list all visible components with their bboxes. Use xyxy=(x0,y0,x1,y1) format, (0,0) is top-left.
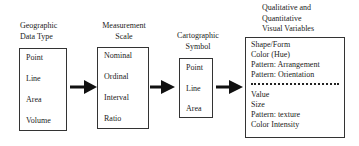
title-line: Geographic xyxy=(20,21,57,32)
qualitative-item: Shape/Form xyxy=(251,40,290,49)
title-line: Visual Variables xyxy=(262,24,314,35)
measurement-scale-box: Nominal Ordinal Interval Ratio xyxy=(97,47,149,129)
arrow-right-icon xyxy=(70,80,98,94)
list-item: Area xyxy=(26,95,42,104)
list-item: Ratio xyxy=(104,114,121,123)
title-line: Symbol xyxy=(170,42,226,53)
title-line: Measurement xyxy=(96,21,152,32)
list-item: Point xyxy=(26,53,43,62)
geographic-data-type-title: Geographic Data Type xyxy=(20,21,57,42)
qualitative-item: Pattern: Arrangement xyxy=(251,60,320,69)
list-item: Area xyxy=(186,104,202,113)
geographic-data-type-box: Point Line Area Volume xyxy=(19,48,67,131)
cartographic-symbol-title: Cartographic Symbol xyxy=(170,31,226,52)
arrow-right-icon xyxy=(150,80,176,94)
measurement-scale-title: Measurement Scale xyxy=(96,21,152,42)
quantitative-item: Color Intensity xyxy=(251,120,299,129)
divider xyxy=(251,83,339,85)
quantitative-item: Size xyxy=(251,100,265,109)
list-item: Volume xyxy=(26,116,51,125)
qualitative-item: Pattern: Orientation xyxy=(251,70,314,79)
title-line: Qualitative and xyxy=(262,3,314,14)
list-item: Ordinal xyxy=(104,72,128,81)
title-line: Data Type xyxy=(20,32,57,43)
title-line: Cartographic xyxy=(170,31,226,42)
list-item: Line xyxy=(186,84,201,93)
quantitative-item: Pattern: texture xyxy=(251,110,300,119)
arrow-right-icon xyxy=(216,80,244,94)
list-item: Line xyxy=(26,74,41,83)
qualitative-item: Color (Hue) xyxy=(251,50,290,59)
list-item: Interval xyxy=(104,93,129,102)
cartographic-symbol-box: Point Line Area xyxy=(179,58,213,118)
title-line: Quantitative xyxy=(262,14,314,25)
visual-variables-title: Qualitative and Quantitative Visual Vari… xyxy=(262,3,314,35)
quantitative-item: Value xyxy=(251,90,269,99)
title-line: Scale xyxy=(96,32,152,43)
list-item: Nominal xyxy=(104,51,132,60)
list-item: Point xyxy=(186,63,203,72)
visual-variables-box: Shape/Form Color (Hue) Pattern: Arrangem… xyxy=(245,37,345,138)
